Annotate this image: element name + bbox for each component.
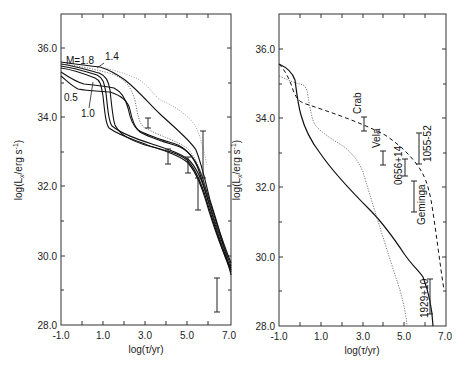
right-ytick-34: 34.0 bbox=[256, 113, 276, 124]
curve-m05 bbox=[61, 76, 231, 263]
curve-dotted-right bbox=[279, 76, 407, 326]
right-panel: 28.0 30.0 32.0 34.0 36.0 -1.0 1.0 3.0 5.… bbox=[230, 14, 452, 356]
left-xtick-7: 7.0 bbox=[222, 330, 236, 341]
right-x-axis-title: log(τ/yr) bbox=[344, 345, 379, 356]
left-xtick-1: 1.0 bbox=[96, 330, 110, 341]
left-xtick-m1: -1.0 bbox=[52, 330, 70, 341]
left-ytick-36: 36.0 bbox=[38, 43, 58, 54]
right-ytick-32: 32.0 bbox=[256, 182, 276, 193]
chart-figure: 28.0 30.0 32.0 34.0 36.0 -1.0 1.0 3.0 5.… bbox=[0, 0, 465, 370]
right-xtick-5: 5.0 bbox=[397, 331, 411, 342]
curve-m10 bbox=[61, 68, 231, 268]
left-ytick-32: 32.0 bbox=[38, 181, 58, 192]
leader-m10 bbox=[89, 82, 93, 108]
label-1929: 1929+10 bbox=[419, 278, 430, 318]
label-m18: M=1.8 bbox=[66, 55, 95, 66]
right-xtick-m1: -1.0 bbox=[270, 331, 288, 342]
label-m05: 0.5 bbox=[64, 92, 78, 103]
right-xtick-1: 1.0 bbox=[314, 331, 328, 342]
right-ytick-36: 36.0 bbox=[256, 44, 276, 55]
curve-m14 bbox=[61, 64, 231, 272]
label-geminga: Geminga bbox=[416, 184, 427, 225]
label-0656: 0656+14 bbox=[393, 145, 404, 185]
right-ytick-30: 30.0 bbox=[256, 252, 276, 263]
right-xtick-7: 7.0 bbox=[438, 331, 452, 342]
left-ytick-30: 30.0 bbox=[38, 251, 58, 262]
left-xtick-5: 5.0 bbox=[180, 330, 194, 341]
curve-m18 bbox=[61, 62, 231, 275]
left-xtick-3: 3.0 bbox=[138, 330, 152, 341]
left-y-axis-title: log(Lx/erg s-1) bbox=[12, 140, 25, 200]
curve-m05b bbox=[61, 72, 231, 266]
label-vela: Vela bbox=[371, 128, 382, 148]
label-1055: 1055-52 bbox=[422, 125, 433, 162]
curve-dotted-left-b bbox=[100, 67, 207, 165]
curve-m10b bbox=[61, 66, 231, 270]
left-x-axis-title: log(τ/yr) bbox=[128, 344, 163, 355]
right-xtick-3: 3.0 bbox=[356, 331, 370, 342]
left-panel: 28.0 30.0 32.0 34.0 36.0 -1.0 1.0 3.0 5.… bbox=[12, 14, 236, 355]
label-m14: 1.4 bbox=[105, 51, 119, 62]
label-crab: Crab bbox=[352, 92, 363, 114]
curve-dotted-left bbox=[61, 64, 231, 265]
left-curves bbox=[61, 62, 231, 275]
right-y-axis-title: log(Lx/erg s-1) bbox=[230, 140, 243, 200]
left-ytick-34: 34.0 bbox=[38, 112, 58, 123]
label-m10: 1.0 bbox=[81, 108, 95, 119]
